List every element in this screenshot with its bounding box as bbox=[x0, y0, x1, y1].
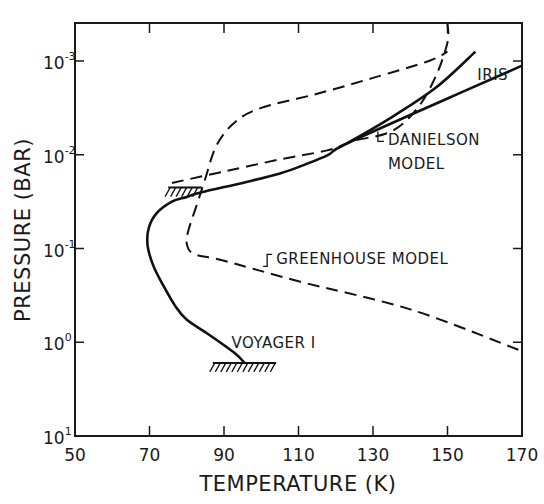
annotation-label: MODEL bbox=[388, 155, 445, 173]
annotation-label: GREENHOUSE MODEL bbox=[276, 250, 448, 268]
x-tick-label: 50 bbox=[64, 445, 86, 465]
hatch-mark bbox=[237, 363, 242, 372]
plot-frame bbox=[75, 23, 522, 436]
hatch-mark bbox=[270, 363, 275, 372]
annotation-label: IRIS bbox=[477, 66, 508, 84]
annotation-group: IRISDANIELSONMODELGREENHOUSE MODELVOYAGE… bbox=[231, 66, 508, 352]
hatch-mark bbox=[221, 363, 226, 372]
series-voyager-i bbox=[147, 66, 522, 363]
hatch-mark bbox=[182, 188, 187, 197]
x-tick-label: 110 bbox=[282, 445, 314, 465]
hatch-mark bbox=[254, 363, 259, 372]
y-tick-label: 100 bbox=[43, 331, 72, 354]
annotation-label: VOYAGER I bbox=[231, 334, 315, 352]
y-tick-label: 10-2 bbox=[43, 144, 76, 167]
hatch-mark bbox=[210, 363, 215, 372]
y-axis: 10-310-210-1100101 bbox=[43, 50, 522, 448]
annotation-label: DANIELSON bbox=[388, 131, 480, 149]
x-tick-label: 170 bbox=[506, 445, 538, 465]
x-axis-title: TEMPERATURE (K) bbox=[198, 472, 396, 496]
hatch-mark bbox=[165, 188, 170, 197]
hatch-mark bbox=[171, 188, 176, 197]
hatch-mark bbox=[176, 188, 181, 197]
hatch-mark bbox=[259, 363, 264, 372]
series-group bbox=[147, 24, 522, 363]
x-tick-label: 130 bbox=[357, 445, 389, 465]
hatch-mark bbox=[215, 363, 220, 372]
y-axis-title: PRESSURE (BAR) bbox=[11, 138, 35, 322]
hatch-mark bbox=[232, 363, 237, 372]
y-tick-label: 10-1 bbox=[43, 238, 76, 261]
series-greenhouse-model bbox=[186, 52, 518, 350]
hatch-mark bbox=[243, 363, 248, 372]
series-iris bbox=[347, 52, 476, 144]
temperature-pressure-chart: 507090110130150170 10-310-210-1100101 IR… bbox=[0, 0, 544, 504]
hatch-mark bbox=[265, 363, 270, 372]
greenhouse-leader bbox=[263, 254, 272, 266]
hatch-mark bbox=[248, 363, 253, 372]
hatch-mark bbox=[226, 363, 231, 372]
y-tick-label: 10-3 bbox=[43, 50, 76, 73]
x-tick-label: 70 bbox=[139, 445, 161, 465]
x-tick-label: 150 bbox=[431, 445, 463, 465]
x-tick-label: 90 bbox=[213, 445, 235, 465]
